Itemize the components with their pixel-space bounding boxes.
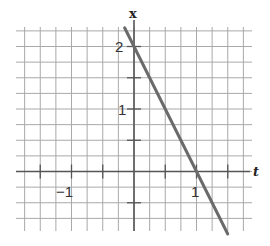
tick-label-t-1: 1 [191,183,199,200]
axes [16,20,250,231]
tick-label-x-2: 2 [115,38,123,55]
x-axis-label: t [253,164,259,179]
y-axis-label: x [129,6,137,21]
tick-label-t-neg1: −1 [56,183,73,200]
line-chart: x t −1 1 1 2 [0,0,270,246]
tick-label-x-1: 1 [118,101,126,118]
